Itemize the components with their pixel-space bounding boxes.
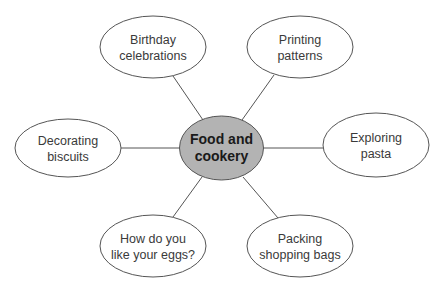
node-label-line: How do you: [120, 232, 186, 246]
central-topic: Food andcookery: [180, 116, 264, 180]
topic-node-printing: Printingpatterns: [247, 16, 353, 78]
node-label-line: like your eggs?: [111, 248, 195, 262]
connector-line-printing: [242, 75, 274, 120]
node-label-line: biscuits: [47, 150, 89, 164]
connector-line-packing: [243, 177, 278, 218]
node-ellipse: [100, 16, 206, 78]
node-label-line: shopping bags: [259, 248, 340, 262]
node-label-line: Printing: [279, 33, 321, 47]
node-label-line: Packing: [278, 232, 323, 246]
node-ellipse: [100, 215, 206, 277]
node-label-line: Exploring: [350, 131, 402, 145]
node-label-line: patterns: [277, 49, 322, 63]
node-ellipse: [247, 215, 353, 277]
topic-node-decorating: Decoratingbiscuits: [15, 119, 121, 177]
node-ellipse: [15, 119, 121, 177]
node-label-line: pasta: [361, 147, 392, 161]
topic-node-eggs: How do youlike your eggs?: [100, 215, 206, 277]
node-label-line: Food and: [190, 131, 253, 147]
topic-node-packing: Packingshopping bags: [247, 215, 353, 277]
topic-node-birthday: Birthdaycelebrations: [100, 16, 206, 78]
node-ellipse: [323, 113, 429, 177]
connector-line-eggs: [173, 177, 202, 217]
node-label-line: cookery: [195, 148, 249, 164]
mind-map-diagram: BirthdaycelebrationsPrintingpatternsDeco…: [0, 0, 442, 289]
node-label-line: Decorating: [38, 134, 98, 148]
topic-node-exploring: Exploringpasta: [323, 113, 429, 177]
node-label-line: Birthday: [130, 33, 177, 47]
connector-line-birthday: [173, 76, 203, 120]
node-label-line: celebrations: [119, 49, 186, 63]
node-ellipse: [247, 16, 353, 78]
